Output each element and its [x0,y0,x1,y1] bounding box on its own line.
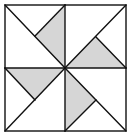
pinwheel-diagram [0,0,127,138]
